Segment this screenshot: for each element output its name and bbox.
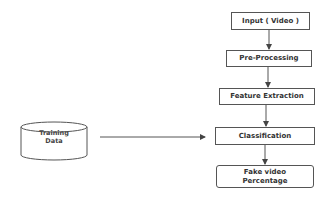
node-preprocessing: Pre-Processing <box>226 50 312 67</box>
node-output-label-line1: Fake video <box>244 168 286 176</box>
datastore-label-line2: Data <box>21 138 87 146</box>
node-output-label-line2: Percentage <box>242 177 287 185</box>
node-input-label: Input ( Video ) <box>242 17 299 25</box>
node-input: Input ( Video ) <box>231 12 310 30</box>
node-classification: Classification <box>215 127 315 145</box>
node-classification-label: Classification <box>239 132 292 140</box>
node-output: Fake video Percentage <box>216 165 314 188</box>
node-feature-extraction: Feature Extraction <box>219 88 315 105</box>
node-preprocessing-label: Pre-Processing <box>239 54 298 62</box>
datastore-training-data-label: Training Data <box>21 130 87 146</box>
node-feature-extraction-label: Feature Extraction <box>230 92 303 100</box>
